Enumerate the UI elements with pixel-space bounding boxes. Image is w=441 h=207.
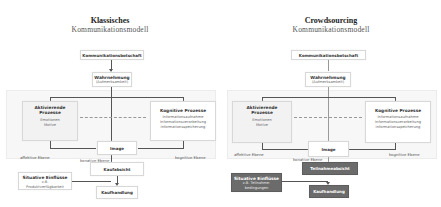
box-label: Kaufhandlung: [313, 189, 345, 194]
box-title: Kognitive Prozesse: [366, 108, 430, 113]
box-kommunikationsbotschaft: Kommunikationsbotschaft: [291, 50, 366, 60]
connector: [72, 181, 111, 182]
connector: [183, 141, 184, 148]
title-line2: Kommunikationsmodell: [0, 25, 220, 34]
label-kognitive-ebene: kognitive Ebene: [389, 152, 419, 157]
box-title: Kognitive Prozesse: [151, 108, 215, 113]
title-line1: Crowdsourcing: [221, 16, 441, 25]
box-title: Aktivierende Prozesse: [233, 105, 291, 115]
box-sub: (Aufmerksamkeit): [93, 80, 131, 85]
connector: [262, 97, 396, 98]
box-label: Kaufhandlung: [101, 190, 133, 195]
box-label: Image: [110, 146, 124, 151]
classic-model-title: Klassisches Kommunikationsmodell: [0, 16, 220, 34]
box-sub: (Aufmerksamkeit): [306, 80, 350, 85]
box-image: Image: [97, 141, 137, 155]
connector: [328, 60, 329, 71]
box-kognitive-prozesse: Kognitive Prozesse Informationsaufnahme …: [365, 101, 431, 143]
crowdsourcing-model-panel: Crowdsourcing Kommunikationsmodell Kommu…: [221, 0, 441, 207]
connector-dashed: [80, 117, 146, 118]
label-affektive-ebene: affektive Ebene: [20, 155, 50, 160]
title-line1: Klassisches: [0, 16, 220, 25]
box-kognitive-prozesse: Kognitive Prozesse Informationsaufnahme …: [150, 101, 216, 141]
box-label: Kommunikationsbotschaft: [82, 53, 141, 58]
connector: [111, 87, 112, 169]
box-situative-einfluesse: Situative Einflüsse z.B. Produktverfügba…: [18, 172, 72, 190]
box-kaufhandlung: Kaufhandlung: [96, 186, 138, 199]
box-kaufhandlung: Kaufhandlung: [309, 185, 349, 198]
box-item: Informationsspeicherung: [366, 125, 430, 130]
box-item: Motive: [233, 123, 291, 128]
box-image: Image: [308, 141, 349, 157]
box-label: Teilnahmeabsicht: [310, 166, 349, 171]
label-kognitive-ebene: kognitive Ebene: [175, 155, 205, 160]
connector: [262, 149, 308, 150]
label-affektive-ebene: affektive Ebene: [234, 152, 264, 157]
box-item: Motive: [23, 123, 77, 128]
connector: [282, 181, 328, 182]
box-aktivierende-prozesse: Aktivierende Prozesse Emotionen Motive: [232, 101, 292, 143]
box-wahrnehmung: Wahrnehmung (Aufmerksamkeit): [92, 72, 132, 87]
connector: [50, 148, 96, 149]
connector: [50, 141, 51, 148]
connector: [50, 97, 184, 98]
title-line2: Kommunikationsmodell: [221, 25, 441, 34]
box-sub: bedingungen: [232, 186, 281, 191]
classic-model-panel: Klassisches Kommunikationsmodell Kommuni…: [0, 0, 220, 207]
connector: [349, 149, 396, 150]
box-sub: Produktverfügbarkeit: [19, 185, 71, 190]
box-kaufabsicht: Kaufabsicht: [90, 162, 144, 176]
box-teilnahmeabsicht: Teilnahmeabsicht: [302, 162, 358, 175]
box-kommunikationsbotschaft: Kommunikationsbotschaft: [80, 50, 144, 60]
box-aktivierende-prozesse: Aktivierende Prozesse Emotionen Motive: [22, 101, 78, 141]
box-situative-einfluesse: Situative Einflüsse z.B. Teilnahme- bedi…: [231, 173, 282, 192]
connector: [138, 148, 184, 149]
box-title: Aktivierende Prozesse: [23, 105, 77, 115]
box-wahrnehmung: Wahrnehmung (Aufmerksamkeit): [305, 72, 351, 87]
crowdsourcing-model-title: Crowdsourcing Kommunikationsmodell: [221, 16, 441, 34]
box-label: Image: [322, 147, 336, 152]
box-label: Kaufabsicht: [104, 167, 131, 172]
connector-dashed: [294, 117, 362, 118]
box-item: Informationsspeicherung: [151, 125, 215, 130]
box-label: Kommunikationsbotschaft: [299, 53, 358, 58]
